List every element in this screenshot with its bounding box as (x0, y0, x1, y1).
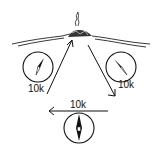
campfire-icon (68, 12, 92, 37)
compass-icon (23, 52, 53, 82)
compass-icon (106, 52, 136, 82)
leg-1-distance-label: 10k (28, 84, 44, 94)
navigation-diagram: 10k 10k 10k (0, 0, 161, 157)
leg-3-distance-label: 10k (70, 100, 86, 110)
leg-2-distance-label: 10k (118, 80, 134, 90)
compass-icon (64, 113, 94, 143)
